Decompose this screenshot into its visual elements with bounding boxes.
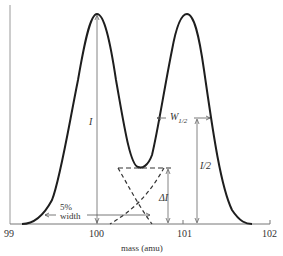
half-width-label-sub: 1/2 bbox=[178, 117, 187, 125]
x-tick-label-101: 101 bbox=[177, 229, 192, 239]
spectrum-figure bbox=[0, 0, 283, 256]
x-tick-label-100: 100 bbox=[89, 229, 104, 239]
spectrum-curve bbox=[22, 14, 252, 224]
five-pct-label-line2: width bbox=[60, 211, 81, 221]
x-axis-label: mass (amu) bbox=[121, 243, 163, 253]
half-height-label: I/2 bbox=[200, 161, 211, 171]
peak-height-label: I bbox=[89, 117, 92, 127]
x-tick-label-102: 102 bbox=[262, 229, 277, 239]
x-tick-label-99: 99 bbox=[4, 229, 14, 239]
right-peak-dashed-tail bbox=[110, 168, 164, 224]
delta-i-label: ΔI bbox=[159, 193, 168, 203]
half-width-label: W1/2 bbox=[170, 112, 187, 126]
